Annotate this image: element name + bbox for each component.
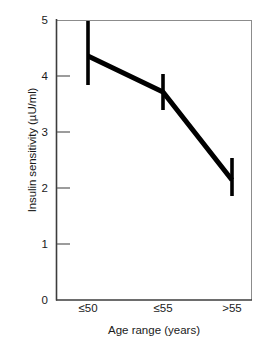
data-line [88,56,232,180]
plot-canvas [0,0,271,350]
chart-figure: Insulin sensitivity (µU/ml) 5 4 3 2 1 0 … [0,0,271,350]
axis-frame [56,19,252,301]
error-bars [88,21,232,196]
y-axis-ticks [57,76,70,244]
